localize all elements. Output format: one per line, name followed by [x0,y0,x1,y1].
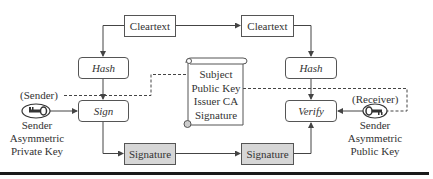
cert-field-signature: Signature [190,109,242,123]
receiver-key-caption: Sender Asymmetric Public Key [342,119,408,158]
signature-receiver-box: Signature [241,143,294,165]
hash-sender-label: Hash [92,62,115,74]
private-key-icon [22,104,50,118]
sender-key-line-2: Asymmetric [4,132,70,145]
cert-field-issuer-ca: Issuer CA [190,95,242,109]
receiver-role-label: (Receiver) [352,93,398,106]
signature-sender-box: Signature [124,143,176,165]
sender-key-line-3: Private Key [4,145,70,158]
sender-key-line-1: Sender [4,119,70,132]
receiver-key-line-3: Public Key [342,145,408,158]
cleartext-receiver-label: Cleartext [247,20,287,32]
receiver-key-line-2: Asymmetric [342,132,408,145]
signature-sender-label: Signature [129,148,171,160]
hash-sender-box: Hash [78,57,129,79]
receiver-key-line-1: Sender [342,119,408,132]
signature-receiver-label: Signature [246,148,288,160]
hash-receiver-box: Hash [285,57,337,79]
public-key-icon [363,104,387,118]
cleartext-receiver-box: Cleartext [241,15,294,37]
verify-box: Verify [285,100,337,122]
cert-field-public-key: Public Key [190,82,242,96]
sign-box: Sign [78,100,129,122]
cert-field-subject: Subject [190,68,242,82]
sign-label: Sign [94,105,114,117]
cleartext-sender-box: Cleartext [124,15,176,37]
verify-label: Verify [298,105,324,117]
sender-role-label: (Sender) [20,89,58,102]
cleartext-sender-label: Cleartext [130,20,170,32]
hash-receiver-label: Hash [299,62,322,74]
sender-key-caption: Sender Asymmetric Private Key [4,119,70,158]
bottom-rule [0,172,429,175]
certificate-fields: Subject Public Key Issuer CA Signature [190,68,242,122]
